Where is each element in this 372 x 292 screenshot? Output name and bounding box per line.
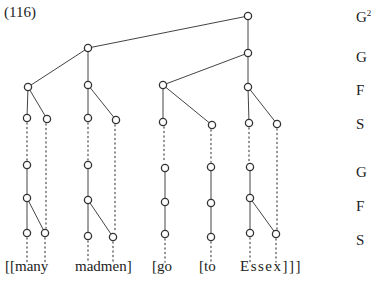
level-label: S [356, 232, 364, 249]
tree-edge [248, 87, 277, 124]
tree-edge [28, 48, 88, 87]
tree-node [244, 83, 251, 90]
tree-node [161, 230, 168, 237]
tree-edge [163, 85, 212, 125]
tree-node [23, 194, 30, 201]
example-number: (116) [4, 4, 36, 21]
tree-node [84, 161, 91, 168]
tree-node [246, 163, 253, 170]
level-label-text: S [356, 116, 364, 132]
tree-edges [27, 16, 277, 237]
level-label-text: G [356, 49, 367, 65]
tree-node [208, 121, 215, 128]
tree-node [207, 163, 214, 170]
word: [to [199, 258, 216, 275]
level-label-text: G [356, 164, 367, 180]
tree-node [112, 116, 119, 123]
tree-node [207, 199, 214, 206]
tree-edge [88, 16, 248, 48]
tree-edge [250, 198, 276, 234]
tree-edge [248, 87, 249, 123]
tree-node [23, 229, 30, 236]
tree-node [41, 229, 48, 236]
tree-node [84, 81, 91, 88]
tree-edge [163, 53, 248, 85]
level-label-superscript: 2 [367, 8, 372, 18]
tree-node [84, 196, 91, 203]
tree-edge [88, 85, 116, 120]
tree-edge [27, 87, 28, 118]
tree-node [161, 164, 168, 171]
tree-node [84, 44, 91, 51]
word: [go [152, 258, 172, 275]
word: Essex]]] [240, 258, 302, 275]
level-label-text: G [356, 9, 367, 25]
association-lines [27, 123, 277, 262]
word: [[many [5, 258, 48, 275]
tree-edge [27, 198, 45, 233]
level-label-text: S [356, 232, 364, 248]
tree-node [23, 114, 30, 121]
tree-node [246, 229, 253, 236]
tree-node [23, 161, 30, 168]
tree-node [273, 120, 280, 127]
tree-edge [88, 200, 113, 237]
level-label: G [356, 49, 367, 66]
tree-node [24, 83, 31, 90]
tree-node [272, 230, 279, 237]
tree-node [244, 49, 251, 56]
tree-nodes [23, 12, 280, 240]
tree-node [245, 119, 252, 126]
tree-node [244, 12, 251, 19]
tree-node [109, 233, 116, 240]
level-label-text: F [356, 82, 364, 98]
tree-node [246, 194, 253, 201]
level-label: S [356, 116, 364, 133]
tree-node [84, 232, 91, 239]
word: madmen] [75, 258, 132, 275]
tree-node [161, 198, 168, 205]
tree-node [207, 233, 214, 240]
tree-node [159, 118, 166, 125]
tree-node [84, 114, 91, 121]
tree-node [43, 115, 50, 122]
tree-node [159, 81, 166, 88]
level-label-text: F [356, 198, 364, 214]
level-label: G [356, 164, 367, 181]
metrical-grid-tree [0, 0, 372, 292]
level-label: F [356, 82, 364, 99]
tree-edge [28, 87, 47, 119]
level-label: G2 [356, 8, 371, 26]
level-label: F [356, 198, 364, 215]
